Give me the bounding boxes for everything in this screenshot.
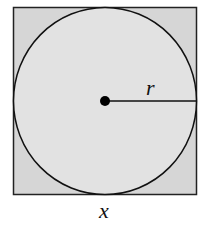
center-dot	[100, 96, 110, 106]
side-label: x	[98, 198, 109, 223]
circle-inscribed-in-square-diagram: r x	[0, 0, 207, 233]
radius-label: r	[146, 75, 155, 100]
